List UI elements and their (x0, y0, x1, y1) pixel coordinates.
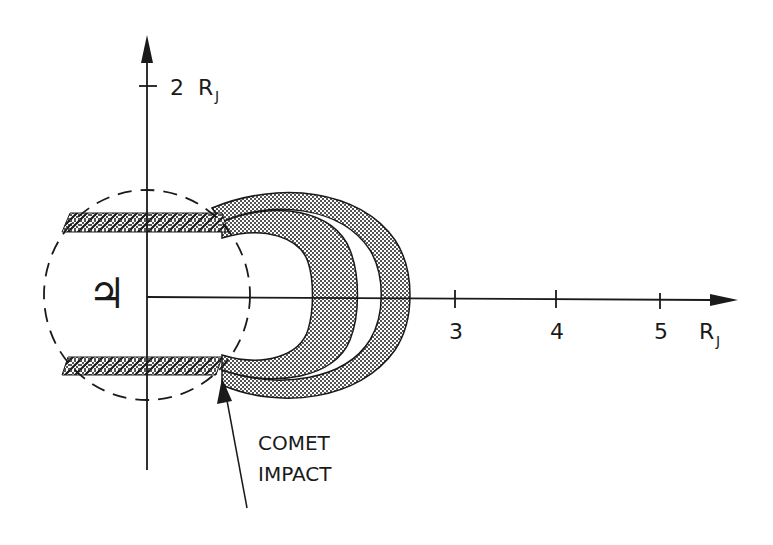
x-axis-arrow-icon (710, 294, 738, 306)
annotation-line1: COMET (258, 431, 331, 455)
lower-hatched-band (62, 357, 222, 375)
y-unit-label: R (198, 75, 213, 100)
y-axis-arrow-icon (141, 35, 153, 63)
upper-hatched-band (62, 213, 228, 232)
jupiter-symbol-icon: ♃ (88, 269, 126, 318)
jupiter-comet-impact-diagram: 2 R J 3 4 5 R J ♃ COMET IMPACT (0, 0, 773, 545)
annotation-line2: IMPACT (258, 462, 332, 486)
comet-impact-arrow (226, 395, 247, 508)
x-unit-label: R (699, 319, 714, 344)
x-tick-label-3: 3 (449, 319, 463, 344)
x-unit-sub: J (715, 333, 720, 349)
x-tick-label-4: 4 (550, 319, 564, 344)
x-tick-label-5: 5 (654, 319, 668, 344)
y-unit-sub: J (214, 88, 219, 104)
y-tick-label: 2 (170, 75, 184, 100)
x-axis (147, 297, 710, 300)
inner-crescent-region (222, 211, 358, 379)
